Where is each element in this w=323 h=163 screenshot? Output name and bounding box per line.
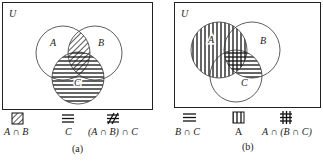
set-b-label-a: B [98, 37, 104, 48]
set-c-label-a-fg: C [74, 77, 81, 88]
legend-item-a-intersect-b: A ∩ B [3, 113, 28, 137]
venn-diagram-figure: U A B C C A ∩ B C [0, 0, 323, 163]
legend-label-a: A [235, 126, 243, 137]
legend-label-a-intersect-b: A ∩ B [3, 126, 28, 137]
legend-label-abc: (A ∩ B) ∩ C [88, 126, 138, 138]
set-c-label-b: C [241, 77, 248, 88]
legend-label-a-bc: A ∩ (B ∩ C) [261, 126, 312, 138]
universe-label-a: U [9, 8, 17, 19]
legend-b: B ∩ C A A ∩ (B ∩ C) [175, 111, 312, 138]
legend-a: A ∩ B C (A ∩ B) ∩ C [3, 113, 138, 138]
legend-item-abc: (A ∩ B) ∩ C [88, 113, 138, 138]
legend-item-a: A [233, 112, 244, 137]
legend-label-b-intersect-c: B ∩ C [175, 126, 200, 137]
legend-item-c: C [62, 115, 74, 137]
venn-figure-a: U A B C C A ∩ B C [3, 3, 153, 156]
set-b-label-b: B [260, 35, 266, 46]
legend-item-a-bc: A ∩ (B ∩ C) [261, 111, 312, 138]
caption-a: (a) [72, 143, 83, 155]
caption-b: (b) [242, 141, 254, 153]
legend-label-c: C [65, 126, 72, 137]
set-a-label-b: A [207, 34, 215, 45]
universe-label-b: U [181, 8, 189, 19]
set-a-label-a: A [49, 37, 57, 48]
legend-item-b-intersect-c: B ∩ C [175, 114, 200, 137]
venn-figure-b: U A A B C B ∩ C A [175, 3, 321, 154]
